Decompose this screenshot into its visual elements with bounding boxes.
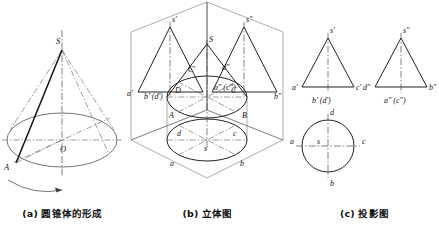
panel-solid-pictorial: s' s" S a' b' (d') C' d" a" (c") b" D C …: [125, 0, 290, 228]
label-base-C: C: [231, 86, 237, 95]
label-front-c: C': [188, 65, 195, 74]
label-front-bottom: b' (d'): [144, 92, 163, 101]
label-top-view-a: a: [290, 137, 294, 146]
label-apex-S: S: [56, 36, 61, 46]
rotation-arrow-arc: [8, 180, 62, 192]
label-side-d: d": [222, 63, 230, 72]
label-base-D: D: [174, 86, 181, 95]
label-front-left: a': [127, 89, 133, 98]
label-base-A: A: [168, 111, 174, 120]
label-front-apex: s': [172, 15, 177, 24]
label-top-d: d: [177, 129, 182, 138]
label-top-s: s: [204, 144, 207, 153]
radius-OA: [16, 140, 62, 163]
label-side-right-b: b": [429, 83, 437, 92]
label-top-view-d: d: [330, 108, 335, 117]
label-top-view-c: c: [362, 137, 366, 146]
label-front-left-a: a': [292, 83, 298, 92]
caption-panel-b: (b) 立体图: [125, 206, 290, 220]
label-top-view-s: s: [317, 137, 320, 146]
label-side-left-d: d": [363, 83, 371, 92]
generatrix-SA: [16, 50, 62, 163]
caption-panel-a: (a) 圆锥体的形成: [0, 206, 125, 220]
label-top-b: b: [240, 159, 244, 168]
cone-formation-drawing: S O A: [0, 0, 125, 200]
label-top-view-b: b: [330, 179, 334, 188]
label-front-right-c: c': [356, 83, 362, 92]
front-projection-triangle: [138, 27, 203, 92]
label-front-below-bd: b' (d'): [312, 96, 331, 105]
label-side-below-ac: a" (c"): [384, 96, 406, 105]
label-center-O: O: [60, 144, 66, 154]
orthographic-views-drawing: s' a' c' b' (d') s" d" b" a" (c") d a s …: [290, 0, 439, 200]
generatrix-trace-left: [10, 50, 62, 130]
label-solid-apex: S: [209, 35, 213, 44]
label-front-apex-s: s': [330, 26, 335, 35]
label-base-B: B: [242, 111, 247, 120]
caption-panel-c: (c) 投影图: [290, 206, 439, 220]
solid-pictorial-drawing: s' s" S a' b' (d') C' d" a" (c") b" D C …: [125, 0, 290, 200]
panel-orthographic-views: s' a' c' b' (d') s" d" b" a" (c") d a s …: [290, 0, 439, 228]
generatrix-trace-right: [62, 50, 114, 130]
label-top-a: a: [170, 159, 174, 168]
rotation-arrow-head: [55, 188, 62, 193]
label-side-right: b": [274, 92, 282, 101]
panel-cone-formation: S O A (a) 圆锥体的形成: [0, 0, 125, 228]
engineering-drawing-figure: S O A (a) 圆锥体的形成: [0, 0, 439, 228]
label-top-c: c: [233, 129, 237, 138]
label-side-apex: s": [246, 15, 253, 24]
label-point-A: A: [3, 162, 10, 172]
label-side-apex-s: s": [403, 26, 410, 35]
